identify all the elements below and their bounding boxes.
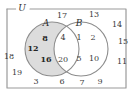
element-label: 15 (118, 38, 128, 46)
element-label: 7 (79, 79, 84, 87)
universe-label: U (16, 4, 28, 13)
set-label-b: B (76, 19, 83, 28)
element-label: 11 (117, 58, 127, 66)
element-label: 5 (76, 55, 81, 63)
venn-diagram-figure: UAB1713141511181936791281642012510 (0, 0, 133, 95)
element-label: 2 (90, 34, 95, 42)
element-label: 4 (60, 34, 65, 42)
element-label: 12 (27, 44, 38, 52)
element-label: 20 (58, 56, 68, 64)
element-label: 1 (76, 34, 81, 42)
element-label: 10 (89, 55, 99, 63)
element-label: 18 (4, 53, 14, 61)
element-label: 6 (59, 78, 64, 86)
element-label: 8 (42, 34, 48, 42)
element-label: 9 (97, 78, 102, 86)
element-label: 13 (89, 11, 99, 19)
element-label: 3 (33, 78, 38, 86)
element-label: 16 (40, 55, 51, 63)
element-label: 19 (12, 69, 22, 77)
element-label: 17 (57, 12, 67, 20)
set-label-a: A (43, 19, 50, 28)
element-label: 14 (112, 21, 122, 29)
